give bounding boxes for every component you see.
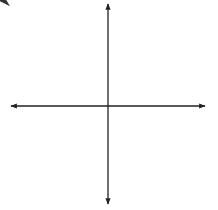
coordinate-plane xyxy=(0,0,218,210)
